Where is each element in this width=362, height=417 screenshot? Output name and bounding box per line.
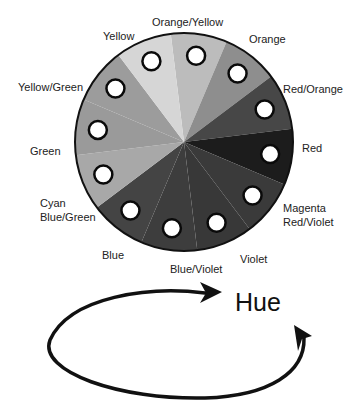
label-cyan: Cyan (40, 197, 66, 210)
label-yellow: Yellow (103, 30, 134, 43)
label-violet: Violet (240, 253, 267, 266)
label-orange: Orange (249, 33, 286, 46)
label-magenta: Magenta (283, 202, 326, 215)
marker-dot-icon (261, 145, 279, 163)
marker-dot-icon (163, 219, 181, 237)
marker-dot-icon (244, 187, 262, 205)
label-orange-yellow: Orange/Yellow (152, 16, 223, 29)
marker-dot-icon (121, 202, 139, 220)
marker-dot-icon (256, 100, 274, 118)
hue-title: Hue (235, 288, 281, 317)
marker-dot-icon (89, 121, 107, 139)
label-blue-violet: Blue/Violet (170, 263, 222, 276)
marker-dot-icon (229, 64, 247, 82)
marker-dot-icon (208, 214, 226, 232)
color-wheel-diagram: Orange/Yellow Orange Red/Orange Red Mage… (0, 0, 362, 417)
label-green: Green (30, 145, 61, 158)
marker-dot-icon (142, 52, 160, 70)
marker-dot-icon (187, 47, 205, 65)
marker-dot-icon (94, 166, 112, 184)
label-red-violet: Red/Violet (283, 216, 334, 229)
wheel-segments (75, 33, 293, 251)
label-red: Red (302, 142, 322, 155)
marker-dot-icon (106, 79, 124, 97)
label-yellow-green: Yellow/Green (18, 81, 83, 94)
label-blue: Blue (102, 249, 124, 262)
label-red-orange: Red/Orange (283, 83, 343, 96)
label-blue-green: Blue/Green (40, 211, 96, 224)
